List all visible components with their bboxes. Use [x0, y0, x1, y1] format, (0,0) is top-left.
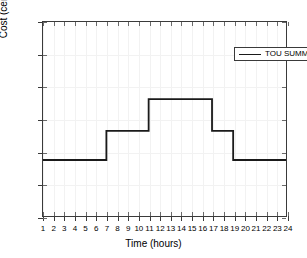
y-axis-title: Cost (cents/kWh)	[0, 0, 9, 60]
y-tick-inner	[43, 218, 47, 219]
x-tick	[256, 216, 257, 221]
x-tick	[245, 216, 246, 221]
plot-area: 1234567891011121314151617181920212223240…	[42, 21, 287, 217]
x-tick	[118, 216, 119, 221]
x-tick	[288, 216, 289, 221]
x-tick	[150, 216, 151, 221]
x-tick	[96, 216, 97, 221]
x-tick	[86, 216, 87, 221]
x-tick	[54, 216, 55, 221]
x-tick	[139, 216, 140, 221]
x-tick	[267, 216, 268, 221]
x-tick-inner	[288, 212, 289, 216]
x-tick	[171, 216, 172, 221]
x-tick	[277, 216, 278, 221]
x-tick	[203, 216, 204, 221]
x-tick	[181, 216, 182, 221]
x-tick	[224, 216, 225, 221]
figure-canvas: Cost (cents/kWh) 12345678910111213141516…	[0, 0, 307, 258]
x-tick	[107, 216, 108, 221]
x-axis-title: Time (hours)	[0, 238, 307, 249]
x-tick	[235, 216, 236, 221]
x-tick-label: 24	[276, 225, 300, 233]
x-tick	[128, 216, 129, 221]
legend-line-sample	[239, 54, 261, 55]
x-tick-top	[288, 22, 289, 26]
x-tick	[192, 216, 193, 221]
y-tick-right	[282, 218, 286, 219]
legend-label-tou-summer: TOU SUMMER	[265, 50, 307, 58]
x-tick	[213, 216, 214, 221]
x-tick	[75, 216, 76, 221]
x-tick	[160, 216, 161, 221]
x-tick	[64, 216, 65, 221]
chart-legend[interactable]: TOU SUMMER	[234, 47, 307, 61]
